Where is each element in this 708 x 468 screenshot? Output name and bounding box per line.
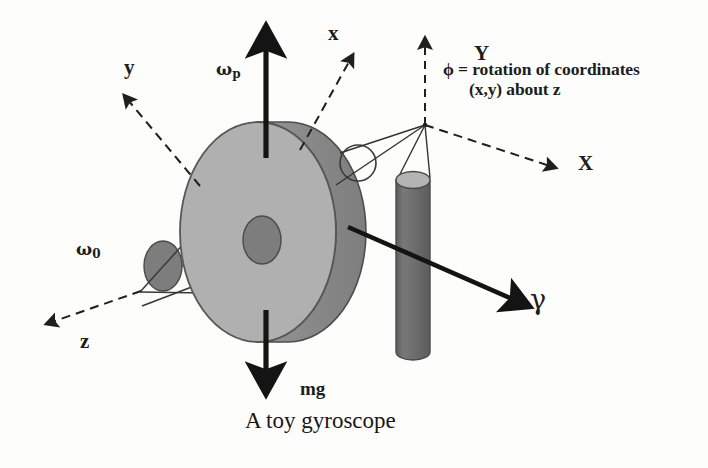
gamma-arrow xyxy=(348,227,517,301)
label-axis-z: z xyxy=(80,330,89,354)
label-omega-0: ω0 xyxy=(76,240,101,262)
label-axis-X: X xyxy=(578,152,593,176)
omega-p-symbol: ω xyxy=(216,59,232,79)
axis-X-arrow xyxy=(425,125,550,166)
omega-p-subscript: p xyxy=(232,67,240,81)
gyroscope-figure: y x z Y X ωp ω0 γ mg ϕ = rotation of coo… xyxy=(0,0,708,468)
omega-0-symbol: ω xyxy=(76,239,92,259)
spinning-disk xyxy=(180,122,336,342)
post-body xyxy=(396,180,430,360)
figure-caption: A toy gyroscope xyxy=(245,408,396,434)
label-mg: mg xyxy=(300,378,325,399)
omega-0-subscript: 0 xyxy=(92,247,100,261)
support-post xyxy=(396,172,430,361)
axis-z-arrow xyxy=(52,291,141,322)
phi-definition-note: ϕ = rotation of coordinates (x,y) about … xyxy=(443,60,640,99)
disk-hub xyxy=(243,216,281,264)
post-top-ellipse xyxy=(396,172,430,189)
vector-gamma xyxy=(348,227,517,301)
axis-y-arrow xyxy=(128,100,200,186)
label-omega-p: ωp xyxy=(216,60,241,82)
phi-note-line-1: ϕ = rotation of coordinates xyxy=(443,59,640,79)
label-gamma: γ xyxy=(530,285,546,315)
label-axis-y: y xyxy=(124,56,135,80)
phi-note-line-2: (x,y) about z xyxy=(469,80,640,100)
label-axis-x: x xyxy=(328,22,339,46)
pivot-string-4 xyxy=(425,125,430,178)
